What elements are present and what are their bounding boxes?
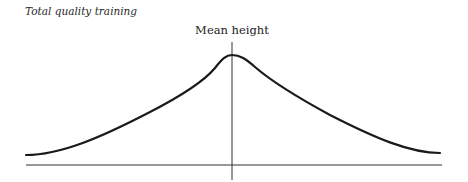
bell-curve-diagram: [0, 0, 468, 182]
bell-curve: [26, 55, 440, 155]
